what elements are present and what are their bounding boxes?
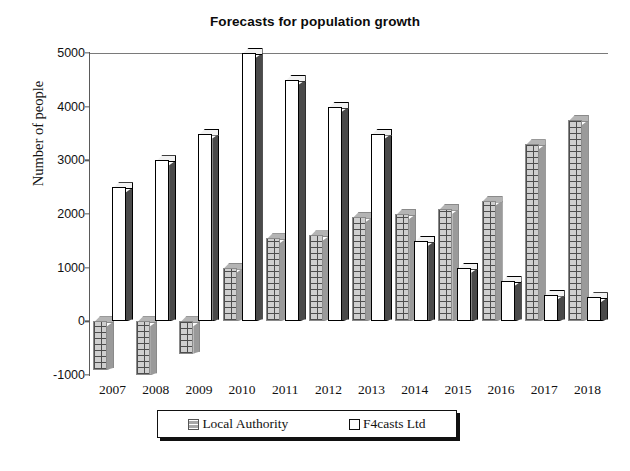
- bar-side-face: [342, 107, 349, 322]
- bar-front-face: [457, 268, 471, 322]
- bar-front-face: [501, 281, 515, 321]
- white-outlined-square-icon: [349, 419, 360, 430]
- bar-f4casts-2010: [242, 53, 256, 321]
- bar-side-face: [150, 321, 157, 375]
- patterned-grey-square-icon: [188, 419, 199, 430]
- y-tick-mark: [85, 213, 90, 214]
- bar-local-authority-2013: [352, 217, 366, 322]
- bar-local-authority-2014: [395, 214, 409, 321]
- bar-f4casts-2008: [155, 160, 169, 321]
- bar-local-authority-2017: [525, 144, 539, 321]
- bar-front-face: [198, 134, 212, 322]
- bar-side-face: [212, 134, 219, 322]
- bar-local-authority-2010: [223, 268, 237, 322]
- bar-front-face: [242, 53, 256, 321]
- y-tick-mark: [85, 52, 90, 53]
- y-tick-label: 0: [78, 314, 85, 328]
- bar-front-face: [438, 209, 452, 322]
- x-tick-label-2014: 2014: [401, 382, 428, 398]
- bar-front-face: [93, 321, 107, 369]
- x-tick-label-2018: 2018: [574, 382, 601, 398]
- bar-front-face: [568, 120, 582, 321]
- bar-f4casts-2017: [544, 295, 558, 322]
- x-tick-label-2008: 2008: [142, 382, 169, 398]
- chart-title: Forecasts for population growth: [0, 14, 630, 29]
- bar-side-face: [299, 80, 306, 322]
- bar-f4casts-2016: [501, 281, 515, 321]
- y-tick-label: 2000: [57, 207, 85, 221]
- legend-label: Local Authority: [202, 416, 288, 432]
- x-tick-label-2007: 2007: [99, 382, 126, 398]
- bar-front-face: [587, 297, 601, 321]
- bar-front-face: [395, 214, 409, 321]
- bar-side-face: [256, 53, 263, 321]
- y-tick-mark: [85, 321, 90, 322]
- x-tick-label-2009: 2009: [185, 382, 212, 398]
- bar-local-authority-2012: [309, 235, 323, 321]
- bar-side-face: [558, 295, 565, 322]
- x-tick-label-2010: 2010: [229, 382, 256, 398]
- bar-local-authority-2011: [266, 238, 280, 321]
- bar-f4casts-2012: [328, 107, 342, 322]
- bar-local-authority-2016: [482, 201, 496, 322]
- bar-front-face: [285, 80, 299, 322]
- bar-side-face: [471, 268, 478, 322]
- bar-front-face: [371, 134, 385, 322]
- bar-front-face: [223, 268, 237, 322]
- bar-front-face: [155, 160, 169, 321]
- bar-front-face: [266, 238, 280, 321]
- y-tick-mark: [85, 106, 90, 107]
- bar-local-authority-2009: [179, 321, 193, 353]
- y-tick-label: 3000: [57, 153, 85, 167]
- y-tick-label: -1000: [53, 368, 85, 382]
- bar-f4casts-2013: [371, 134, 385, 322]
- bar-local-authority-2015: [438, 209, 452, 322]
- legend-item-local-authority[interactable]: Local Authority: [188, 416, 288, 432]
- bar-side-face: [169, 160, 176, 321]
- legend-item-f4casts-ltd[interactable]: F4casts Ltd: [349, 416, 426, 432]
- bar-front-face: [544, 295, 558, 322]
- bar-side-face: [428, 241, 435, 322]
- chart-legend: Local AuthorityF4casts Ltd: [157, 410, 457, 438]
- zero-baseline: [90, 53, 608, 54]
- bar-side-face: [582, 120, 589, 321]
- bar-front-face: [309, 235, 323, 321]
- bar-front-face: [328, 107, 342, 322]
- chart-figure: Forecasts for population growth Number o…: [0, 0, 630, 471]
- y-tick-label: 1000: [57, 261, 85, 275]
- x-tick-label-2012: 2012: [315, 382, 342, 398]
- bar-front-face: [525, 144, 539, 321]
- bar-f4casts-2014: [414, 241, 428, 322]
- x-tick-label-2017: 2017: [531, 382, 558, 398]
- bar-front-face: [112, 187, 126, 321]
- bar-side-face: [193, 321, 200, 353]
- y-tick-mark: [85, 160, 90, 161]
- bar-front-face: [414, 241, 428, 322]
- y-tick-mark: [85, 374, 90, 375]
- bar-f4casts-2018: [587, 297, 601, 321]
- bar-front-face: [136, 321, 150, 375]
- bar-front-face: [482, 201, 496, 322]
- bar-side-face: [107, 321, 114, 369]
- x-tick-label-2011: 2011: [272, 382, 299, 398]
- bar-side-face: [601, 297, 608, 321]
- x-tick-label-2015: 2015: [444, 382, 471, 398]
- bar-front-face: [179, 321, 193, 353]
- bar-front-face: [352, 217, 366, 322]
- bar-f4casts-2007: [112, 187, 126, 321]
- x-tick-label-2016: 2016: [488, 382, 515, 398]
- bar-local-authority-2018: [568, 120, 582, 321]
- y-axis-label: Number of people: [30, 34, 47, 234]
- bar-f4casts-2015: [457, 268, 471, 322]
- y-tick-mark: [85, 267, 90, 268]
- y-tick-label: 5000: [57, 46, 85, 60]
- y-tick-label: 4000: [57, 100, 85, 114]
- plot-area: 500040003000200010000-1000: [90, 53, 608, 375]
- bar-local-authority-2008: [136, 321, 150, 375]
- bar-side-face: [385, 134, 392, 322]
- bar-f4casts-2011: [285, 80, 299, 322]
- bar-side-face: [126, 187, 133, 321]
- bar-local-authority-2007: [93, 321, 107, 369]
- bar-f4casts-2009: [198, 134, 212, 322]
- x-tick-label-2013: 2013: [358, 382, 385, 398]
